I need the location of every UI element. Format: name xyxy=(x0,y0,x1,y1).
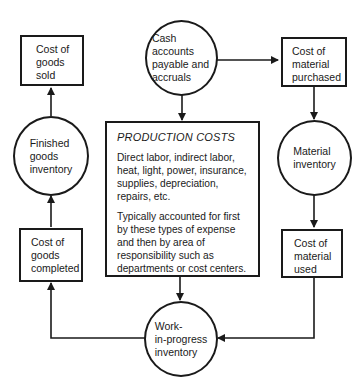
production-costs-paragraph-1: Direct labor, indirect labor, heat, ligh… xyxy=(117,151,250,203)
node-line: Cost of xyxy=(31,236,81,249)
node-line: inventory xyxy=(155,346,208,359)
production-costs-title: PRODUCTION COSTS xyxy=(117,131,250,144)
node-line: used xyxy=(294,263,341,276)
node-line: accounts xyxy=(152,45,209,58)
arrow-wip-to-goods-completed xyxy=(51,283,146,338)
node-work-in-progress-inventory: Work- in-progress inventory xyxy=(144,301,218,377)
node-line: goods xyxy=(36,56,82,69)
node-line: accruals xyxy=(152,71,209,84)
node-line: sold xyxy=(36,69,82,82)
node-line: goods xyxy=(31,249,81,262)
node-line: Cash xyxy=(152,32,209,45)
node-line: completed xyxy=(31,262,81,275)
node-line: material xyxy=(292,58,345,71)
node-line: Material xyxy=(293,145,336,158)
node-line: Work- xyxy=(155,320,208,333)
node-finished-goods-inventory: Finished goods inventory xyxy=(13,116,89,196)
node-cost-of-material-purchased: Cost of material purchased xyxy=(281,37,347,87)
node-line: material xyxy=(294,250,341,263)
node-line: in-progress xyxy=(155,333,208,346)
production-costs-paragraph-2: Typically accounted for first by these t… xyxy=(117,210,250,275)
node-line: goods xyxy=(30,150,73,163)
node-production-costs: PRODUCTION COSTS Direct labor, indirect … xyxy=(105,121,260,277)
node-line: purchased xyxy=(292,71,345,84)
node-cost-of-material-used: Cost of material used xyxy=(281,229,343,278)
node-cost-of-goods-sold: Cost of goods sold xyxy=(20,35,84,86)
node-line: Finished xyxy=(30,137,73,150)
node-line: Cost of xyxy=(294,237,341,250)
node-line: Cost of xyxy=(36,43,82,56)
node-line: inventory xyxy=(293,158,336,171)
node-cost-of-goods-completed: Cost of goods completed xyxy=(19,228,83,282)
node-line: Cost of xyxy=(292,45,345,58)
node-material-inventory: Material inventory xyxy=(277,120,352,196)
node-line: inventory xyxy=(30,163,73,176)
node-line: payable and xyxy=(152,58,209,71)
node-cash-accounts-payable: Cash accounts payable and accruals xyxy=(145,20,218,96)
arrow-material-used-to-wip xyxy=(218,277,314,338)
